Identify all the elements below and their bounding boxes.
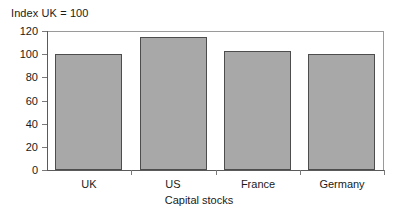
y-axis-tick-label: 80 <box>0 72 38 83</box>
x-axis-tick <box>300 170 301 175</box>
y-axis-tick <box>42 170 47 171</box>
bar-uk <box>55 54 122 170</box>
x-axis-title: Capital stocks <box>0 194 398 207</box>
x-axis-category-label: Germany <box>300 178 384 191</box>
y-axis-tick-label: 120 <box>0 26 38 37</box>
x-axis-category-label: UK <box>47 178 131 191</box>
bar-germany <box>308 54 375 170</box>
x-axis-tick <box>216 170 217 175</box>
x-axis-category-label: US <box>131 178 215 191</box>
bar-chart: Index UK = 100 020406080100120 UKUSFranc… <box>0 0 398 216</box>
y-axis-tick <box>42 54 47 55</box>
y-axis-tick-label: 40 <box>0 119 38 130</box>
y-axis-tick-label: 60 <box>0 96 38 107</box>
y-axis-tick <box>42 31 47 32</box>
y-axis-tick <box>42 77 47 78</box>
x-axis-tick <box>131 170 132 175</box>
y-axis-tick <box>42 147 47 148</box>
y-axis-tick <box>42 101 47 102</box>
y-axis-tick-label: 0 <box>0 165 38 176</box>
y-axis-tick-label: 100 <box>0 49 38 60</box>
chart-title: Index UK = 100 <box>11 7 89 20</box>
x-axis-tick <box>384 170 385 175</box>
y-axis-line <box>47 31 48 170</box>
y-axis-tick <box>42 124 47 125</box>
x-axis-category-label: France <box>216 178 300 191</box>
y-axis-tick-label: 20 <box>0 142 38 153</box>
bar-france <box>224 51 291 170</box>
bar-us <box>140 37 207 170</box>
